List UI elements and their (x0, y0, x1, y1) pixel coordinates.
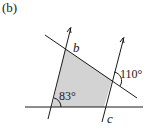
parallel-arrow-icon (120, 38, 124, 43)
parallel-arrow-icon (67, 28, 71, 33)
angle-label-110: 110° (120, 67, 142, 82)
label-b: b (73, 40, 80, 56)
angle-label-83: 83° (59, 89, 76, 104)
geometry-diagram (0, 0, 154, 128)
label-c: c (107, 111, 113, 127)
